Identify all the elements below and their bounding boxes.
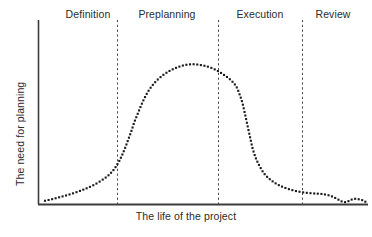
curve-dot <box>284 187 286 189</box>
curve-dot <box>120 157 122 159</box>
curve-dot <box>75 191 77 193</box>
curve-dot <box>139 106 141 108</box>
curve-dot <box>214 68 216 70</box>
curve-dot <box>129 133 131 135</box>
curve-dot <box>252 150 254 152</box>
curve-dot <box>275 182 277 184</box>
curve-dot <box>55 197 57 199</box>
curve-dot <box>237 90 239 92</box>
curve-dot <box>150 87 152 89</box>
curve-dot <box>243 111 245 113</box>
curve-dot <box>165 72 167 74</box>
curve-dot <box>358 198 360 200</box>
curve-dot <box>125 143 127 145</box>
curve-dot <box>278 184 280 186</box>
curve-dot <box>92 184 94 186</box>
curve-dot <box>249 136 251 138</box>
curve-dot <box>234 83 236 85</box>
curve-dot <box>255 157 257 159</box>
curve-dot <box>306 192 308 194</box>
curve-dot <box>138 109 140 111</box>
curve-dot <box>134 120 136 122</box>
curve-dot <box>266 176 268 178</box>
curve-dot <box>351 199 353 201</box>
curve-dot <box>152 84 154 86</box>
curve-dot <box>189 63 191 65</box>
curve-dot <box>157 78 159 80</box>
curve-dot <box>146 93 148 95</box>
curve-dot <box>247 129 249 131</box>
curve-dot <box>135 116 137 118</box>
curve-dot <box>203 65 205 67</box>
curve-dot <box>240 97 242 99</box>
y-axis-label: The need for planning <box>14 6 26 186</box>
curve-dot <box>116 163 118 165</box>
curve-dot <box>86 187 88 189</box>
phase-label-preplanning: Preplanning <box>138 8 195 20</box>
curve-dot <box>247 125 249 127</box>
curve-dot <box>79 190 81 192</box>
curve-dot <box>207 66 209 68</box>
curve-dot <box>95 182 97 184</box>
curve-dot <box>320 193 322 195</box>
curve-dot <box>137 113 139 115</box>
curve-dot <box>260 167 262 169</box>
curve-dot <box>242 104 244 106</box>
curve-dot <box>341 200 343 202</box>
curve-dot <box>243 107 245 109</box>
curve-dot <box>162 74 164 76</box>
curve-dot <box>44 200 46 202</box>
curve-dot <box>251 147 253 149</box>
curve-dot <box>288 188 290 190</box>
curve-dot <box>291 189 293 191</box>
curve-dot <box>89 186 91 188</box>
curve-dot <box>196 63 198 65</box>
curve-dot <box>132 126 134 128</box>
curve-dot <box>344 201 346 203</box>
curve-dot <box>239 93 241 95</box>
curve-dot <box>48 199 50 201</box>
curve-dot <box>130 130 132 132</box>
curve-dot <box>112 169 114 171</box>
curve-dot <box>236 86 238 88</box>
curve-dot <box>127 140 129 142</box>
curve-dot <box>144 96 146 98</box>
curve-dot <box>254 154 256 156</box>
need-for-planning-curve <box>44 63 366 203</box>
curve-dot <box>128 137 130 139</box>
curve-dot <box>62 195 64 197</box>
curve-dot <box>251 143 253 145</box>
curve-dot <box>258 164 260 166</box>
curve-dot <box>154 81 156 83</box>
curve-dot <box>317 193 319 195</box>
curve-dot <box>231 81 233 83</box>
curve-dot <box>298 191 300 193</box>
curve-dot <box>118 160 120 162</box>
curve-dot <box>226 76 228 78</box>
curve-dot <box>107 174 109 176</box>
x-axis-label: The life of the project <box>0 210 372 222</box>
curve-dot <box>220 72 222 74</box>
curve-dot <box>58 196 60 198</box>
curve-dot <box>168 70 170 72</box>
phase-label-definition: Definition <box>66 8 111 20</box>
curve-dot <box>141 103 143 105</box>
curve-dot <box>193 63 195 65</box>
curve-dot <box>364 201 366 203</box>
curve-dot <box>124 147 126 149</box>
curve-dot <box>331 195 333 197</box>
planning-need-chart: Definition Preplanning Execution Review … <box>0 0 372 237</box>
curve-dot <box>281 186 283 188</box>
curve-dot <box>347 200 349 202</box>
curve-dot <box>133 123 135 125</box>
curve-dot <box>334 197 336 199</box>
curve-dot <box>142 99 144 101</box>
curve-dot <box>229 78 231 80</box>
curve-dot <box>256 161 258 163</box>
curve-dot <box>309 192 311 194</box>
curve-dot <box>241 100 243 102</box>
curve-dot <box>121 153 123 155</box>
plot-area <box>0 0 372 237</box>
curve-dot <box>302 191 304 193</box>
curve-dot <box>105 177 107 179</box>
